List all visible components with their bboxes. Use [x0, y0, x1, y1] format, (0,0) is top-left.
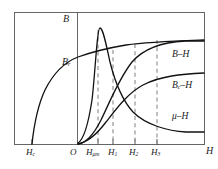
tick-label-h3: H3	[151, 148, 160, 158]
tick-label-hmum-sub: μm	[93, 151, 100, 157]
curve-label-mu-h: μ–H	[172, 112, 188, 122]
curve-label-bc-h: Bc–H	[172, 81, 192, 91]
curve-label-bc-h-tail: –H	[180, 80, 192, 90]
tick-label-hmum: Hμm	[86, 148, 99, 158]
b-axis-label: B	[63, 14, 69, 24]
remanence-label: Br	[62, 57, 71, 68]
tick-label-h2: H2	[129, 148, 138, 158]
tick-label-hc: Hc	[26, 148, 35, 158]
tick-label-h2-sub: 2	[136, 151, 139, 157]
h-axis-label: H	[206, 146, 213, 156]
tick-label-origin: O	[70, 148, 77, 157]
tick-label-h1-sub: 1	[115, 151, 118, 157]
tick-label-hc-sub: c	[33, 151, 35, 157]
magnetization-curve-figure: B H Br Hc O Hμm H1 H2 H3 B–H Bc–H μ–H	[0, 0, 218, 169]
remanence-label-sub: r	[68, 60, 70, 67]
tick-label-h3-sub: 3	[158, 151, 161, 157]
tick-label-h1: H1	[108, 148, 117, 158]
plot-frame	[15, 13, 205, 145]
curve-label-b-h: B–H	[172, 50, 189, 60]
